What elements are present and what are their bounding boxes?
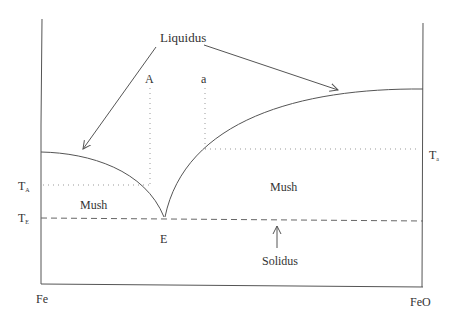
mush-left-label: Mush [80, 198, 107, 212]
solidus-label: Solidus [262, 254, 298, 268]
liquidus-right-curve [165, 89, 423, 217]
left-axis [41, 19, 42, 125]
right-axis [422, 23, 423, 287]
liquidus-arrow-right [204, 45, 338, 90]
liquidus-label: Liquidus [160, 30, 206, 45]
solidus-line [41, 218, 423, 221]
fe-label: Fe [36, 292, 48, 306]
phase-diagram: Liquidus A a Mush Mush E Solidus Fe FeO … [0, 0, 453, 319]
point-a-label: a [201, 72, 207, 86]
t-a-label: Ta [429, 148, 439, 162]
mush-right-label: Mush [270, 180, 297, 194]
point-A-label: A [145, 72, 154, 86]
liquidus-arrow-left [83, 47, 156, 149]
bottom-axis [41, 284, 423, 287]
feo-label: FeO [410, 295, 431, 309]
eutectic-label: E [160, 232, 167, 246]
t-E-label: TE [18, 211, 29, 225]
t-A-label: TA [18, 179, 30, 193]
